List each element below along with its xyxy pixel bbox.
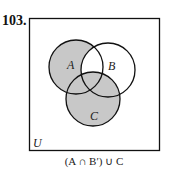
venn-diagram: A B C U (A ∩ B′) ∪ C — [0, 0, 169, 174]
universe-label: U — [33, 136, 43, 150]
set-b-label: B — [108, 59, 116, 73]
set-a-label: A — [66, 58, 75, 72]
expression-caption: (A ∩ B′) ∪ C — [65, 155, 124, 168]
set-c-label: C — [90, 109, 99, 123]
